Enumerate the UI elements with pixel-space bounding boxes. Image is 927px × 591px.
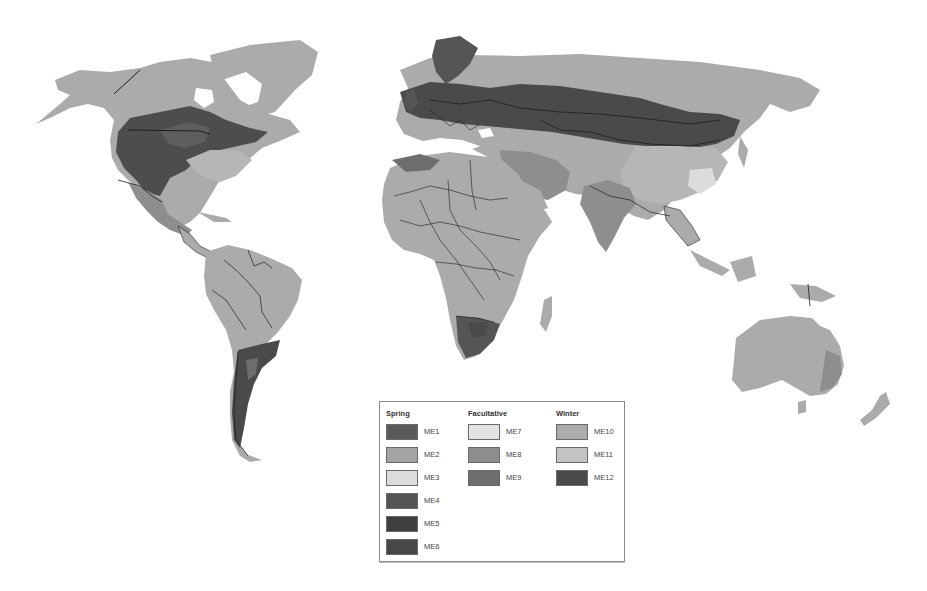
legend-item-me6: ME6 bbox=[386, 538, 439, 555]
swatch-me12 bbox=[556, 470, 588, 486]
legend-item-me4: ME4 bbox=[386, 492, 439, 509]
legend-item-me5: ME5 bbox=[386, 515, 439, 532]
legend-item-me9: ME9 bbox=[468, 469, 521, 486]
swatch-me1 bbox=[386, 424, 418, 440]
legend-label: ME6 bbox=[424, 542, 439, 551]
swatch-me6 bbox=[386, 539, 418, 555]
legend-label: ME2 bbox=[424, 450, 439, 459]
swatch-me3 bbox=[386, 470, 418, 486]
swatch-me10 bbox=[556, 424, 588, 440]
south-america bbox=[204, 245, 302, 462]
swatch-me2 bbox=[386, 447, 418, 463]
legend-label: ME7 bbox=[506, 427, 521, 436]
legend-label: ME4 bbox=[424, 496, 439, 505]
legend-item-me1: ME1 bbox=[386, 423, 439, 440]
legend-group-facultative: Facultative ME7 ME8 ME9 bbox=[468, 408, 521, 492]
legend-group-title: Facultative bbox=[468, 408, 521, 420]
swatch-me11 bbox=[556, 447, 588, 463]
legend-item-me10: ME10 bbox=[556, 423, 614, 440]
legend-group-title: Spring bbox=[386, 408, 439, 420]
legend-item-me3: ME3 bbox=[386, 469, 439, 486]
legend-label: ME5 bbox=[424, 519, 439, 528]
legend-item-me7: ME7 bbox=[468, 423, 521, 440]
legend-item-me8: ME8 bbox=[468, 446, 521, 463]
swatch-me4 bbox=[386, 493, 418, 509]
legend-label: ME12 bbox=[594, 473, 614, 482]
legend-label: ME9 bbox=[506, 473, 521, 482]
legend-label: ME8 bbox=[506, 450, 521, 459]
legend-label: ME3 bbox=[424, 473, 439, 482]
legend-label: ME1 bbox=[424, 427, 439, 436]
legend-group-winter: Winter ME10 ME11 ME12 bbox=[556, 408, 614, 492]
legend-item-me11: ME11 bbox=[556, 446, 614, 463]
legend-label: ME10 bbox=[594, 427, 614, 436]
legend-group-spring: Spring ME1 ME2 ME3 ME4 ME5 ME6 bbox=[386, 408, 439, 561]
swatch-me8 bbox=[468, 447, 500, 463]
swatch-me7 bbox=[468, 424, 500, 440]
legend-item-me12: ME12 bbox=[556, 469, 614, 486]
legend-item-me2: ME2 bbox=[386, 446, 439, 463]
swatch-me5 bbox=[386, 516, 418, 532]
swatch-me9 bbox=[468, 470, 500, 486]
map-legend: Spring ME1 ME2 ME3 ME4 ME5 ME6 Facultati… bbox=[379, 401, 625, 562]
oceania bbox=[690, 250, 890, 426]
legend-group-title: Winter bbox=[556, 408, 614, 420]
legend-label: ME11 bbox=[594, 450, 613, 459]
